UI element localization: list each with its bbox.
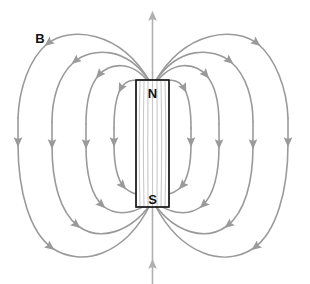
field-symbol-label: B: [35, 31, 44, 46]
bar-magnet: N S: [136, 80, 169, 207]
magnetic-field-diagram: N S B: [0, 0, 310, 284]
north-pole-label: N: [148, 86, 157, 101]
south-pole-label: S: [148, 192, 157, 207]
